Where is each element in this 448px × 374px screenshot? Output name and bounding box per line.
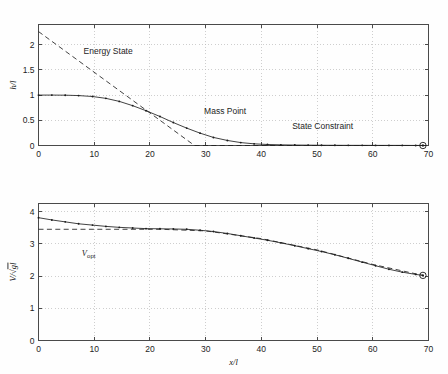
data-point-marker (105, 97, 107, 99)
chart-velocity-profile: 01020304050607001234VoptV/√glx/l (8, 204, 434, 367)
y-tick-label: 2 (30, 271, 35, 281)
data-point-marker (38, 94, 40, 96)
data-point-marker (253, 237, 255, 239)
x-tick-label: 40 (257, 344, 267, 354)
data-point-marker (64, 221, 66, 223)
x-tick-label: 70 (424, 344, 434, 354)
data-point-marker (186, 127, 188, 129)
plot-canvas: 01020304050607000.511.52Energy StateMass… (0, 0, 448, 374)
data-point-marker (92, 96, 94, 98)
x-tick-label: 70 (424, 149, 434, 159)
y-tick-label: 3 (30, 239, 35, 249)
axis-frame (39, 204, 429, 341)
x-tick-label: 30 (201, 344, 211, 354)
endpoint-dot-marker (422, 274, 424, 276)
endpoint-dot-marker (422, 145, 424, 147)
x-tick-label: 50 (312, 344, 322, 354)
chart-height-profile: 01020304050607000.511.52Energy StateMass… (8, 25, 434, 159)
x-tick-label: 60 (368, 149, 378, 159)
y-tick-label: 1 (30, 90, 35, 100)
x-tick-label: 40 (257, 149, 267, 159)
data-point-marker (159, 116, 161, 118)
data-point-marker (401, 271, 403, 273)
data-point-marker (334, 144, 336, 146)
data-point-marker (92, 224, 94, 226)
data-point-marker (401, 144, 403, 146)
data-point-marker (212, 136, 214, 138)
x-axis-title: x/l (228, 357, 238, 367)
data-point-marker (212, 231, 214, 233)
annotation-state-constraint: State Constraint (292, 121, 354, 131)
data-point-marker (64, 94, 66, 96)
data-point-marker (226, 140, 228, 142)
x-tick-label: 20 (145, 344, 155, 354)
annotation-v-opt: Vopt (82, 248, 96, 259)
data-point-marker (118, 100, 120, 102)
y-axis-title-radicand: gl (8, 262, 18, 269)
x-tick-label: 10 (89, 344, 99, 354)
data-point-marker (38, 217, 40, 219)
data-point-marker (172, 122, 174, 124)
data-point-marker (240, 142, 242, 144)
figure-container: 01020304050607000.511.52Energy StateMass… (0, 0, 448, 374)
x-tick-label: 30 (201, 149, 211, 159)
data-point-marker (388, 268, 390, 270)
axis-frame (39, 25, 429, 146)
x-tick-label: 0 (36, 344, 41, 354)
data-point-marker (51, 94, 53, 96)
data-point-marker (267, 144, 269, 146)
data-point-marker (118, 226, 120, 228)
x-tick-label: 20 (145, 149, 155, 159)
y-tick-label: 1.5 (23, 65, 35, 75)
x-tick-label: 10 (89, 149, 99, 159)
annotation-subscript: opt (87, 253, 96, 259)
y-tick-label: 1 (30, 303, 35, 313)
y-tick-label: 2 (30, 40, 35, 50)
data-point-marker (145, 228, 147, 230)
data-point-marker (199, 132, 201, 134)
data-point-marker (78, 223, 80, 225)
series-velocity (39, 218, 423, 276)
data-point-marker (253, 143, 255, 145)
y-tick-label: 0.5 (23, 115, 35, 125)
y-tick-label: 4 (30, 207, 35, 217)
data-point-marker (132, 227, 134, 229)
x-tick-label: 60 (368, 344, 378, 354)
data-point-marker (145, 110, 147, 112)
series-v-opt (39, 229, 423, 275)
y-tick-label: 0 (30, 141, 35, 151)
data-point-marker (78, 95, 80, 97)
annotation-mass-point: Mass Point (204, 106, 247, 116)
x-tick-label: 50 (312, 149, 322, 159)
data-point-marker (132, 105, 134, 107)
y-tick-label: 0 (30, 336, 35, 346)
y-axis-title: V/√gl (8, 262, 18, 281)
y-axis-title: h/l (8, 80, 18, 90)
data-point-marker (51, 219, 53, 221)
annotation-energy-state: Energy State (84, 46, 133, 56)
data-point-marker (105, 225, 107, 227)
x-tick-label: 0 (36, 149, 41, 159)
